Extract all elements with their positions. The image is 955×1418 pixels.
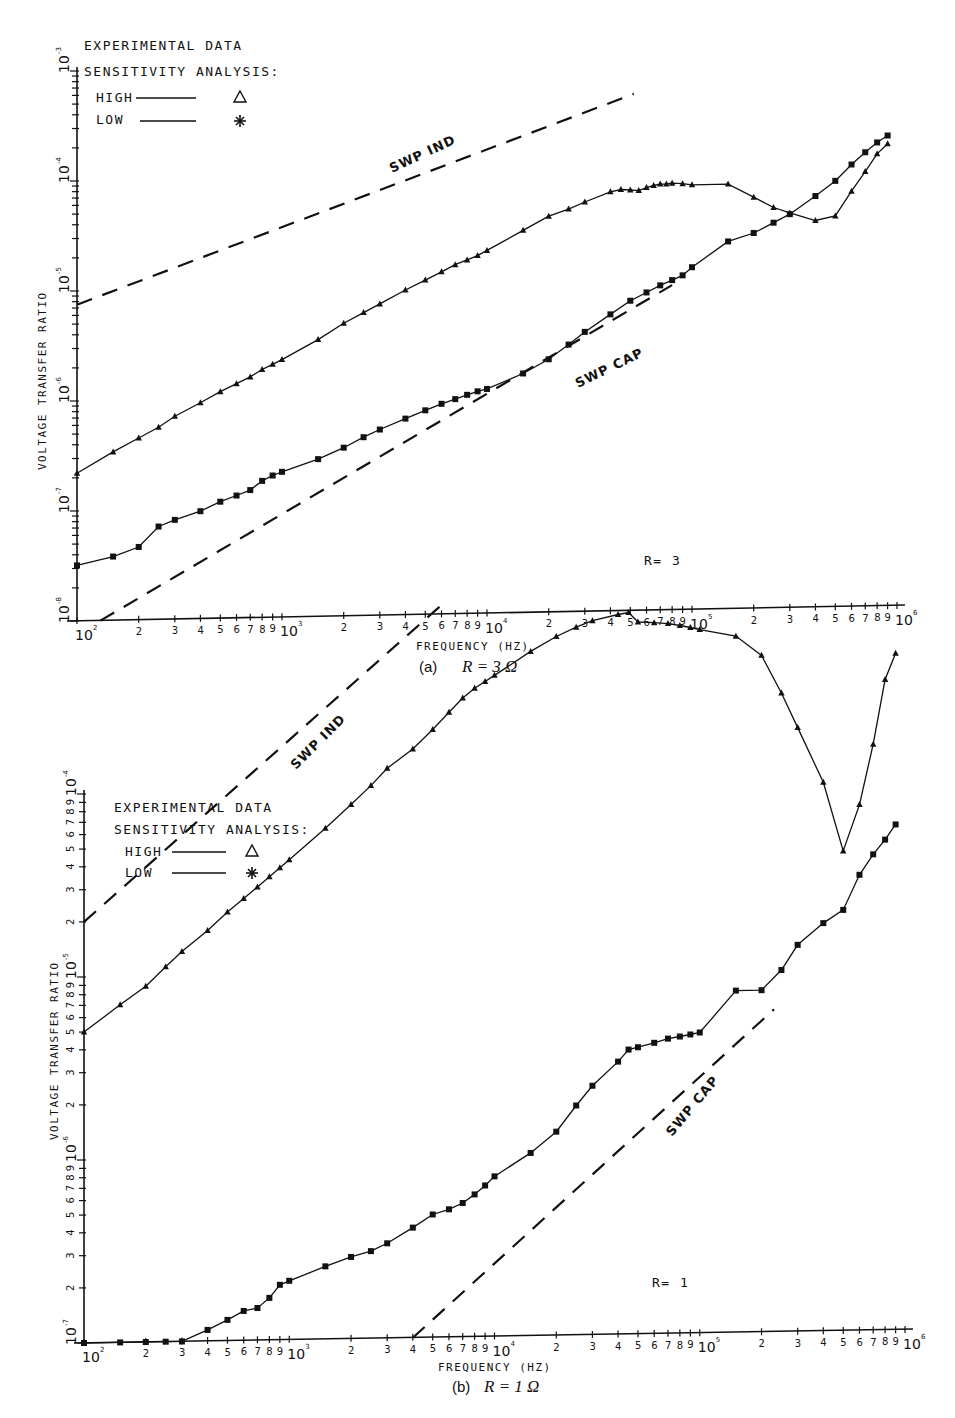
square-marker	[410, 1225, 416, 1231]
panel-a-legend-high-label: HIGH	[96, 90, 133, 105]
y-tick-exponent: -6	[62, 1135, 70, 1143]
triangle-marker	[197, 399, 203, 405]
y-tick-label: 9	[65, 1165, 76, 1171]
square-marker	[475, 388, 481, 394]
x-tick-label: 3	[589, 1341, 595, 1352]
triangle-marker	[74, 470, 80, 476]
x-tick-label: 10	[75, 627, 93, 643]
x-tick-label: 5	[224, 1347, 230, 1358]
data-series-line	[84, 824, 896, 1343]
x-tick-label: 5	[832, 613, 838, 624]
square-marker	[893, 821, 899, 827]
y-tick-label: 10	[63, 1144, 79, 1162]
square-marker	[528, 1150, 534, 1156]
square-marker	[205, 1327, 211, 1333]
y-tick-exponent: -8	[55, 597, 63, 604]
square-marker	[241, 1308, 247, 1314]
dashed-reference-line	[100, 285, 672, 620]
square-marker	[553, 1129, 559, 1135]
square-marker	[156, 524, 162, 530]
x-tick-label: 3	[787, 614, 793, 625]
square-marker	[452, 396, 458, 402]
square-marker	[689, 264, 695, 270]
square-marker	[725, 238, 731, 244]
x-tick-label: 9	[885, 612, 891, 623]
y-tick-exponent: -7	[55, 487, 63, 494]
square-marker	[197, 508, 203, 514]
triangle-marker	[882, 676, 888, 682]
y-tick-exponent: -7	[62, 1319, 70, 1326]
square-marker	[460, 1200, 466, 1206]
square-marker	[179, 1338, 185, 1344]
square-marker	[832, 178, 838, 184]
x-tick-label: 10	[287, 1346, 305, 1362]
x-tick-label: 4	[410, 1344, 416, 1355]
x-tick-label: 9	[893, 1336, 899, 1347]
asterisk-icon	[246, 867, 258, 879]
x-tick-exponent: 6	[921, 1333, 926, 1341]
square-marker	[680, 272, 686, 278]
y-tick-label: 5	[65, 846, 76, 852]
x-tick-exponent: 2	[100, 1346, 104, 1354]
y-tick-label: 6	[65, 1197, 76, 1203]
x-tick-label: 2	[348, 1345, 354, 1356]
panel-b-caption-prefix: (b)	[452, 1378, 470, 1395]
x-tick-label: 6	[849, 613, 855, 624]
y-tick-exponent: -4	[55, 156, 63, 164]
y-tick-exponent: -5	[62, 953, 70, 960]
square-marker	[582, 329, 588, 335]
square-marker	[422, 407, 428, 413]
panel-b-plot-area	[81, 605, 899, 1346]
panel-a-caption-prefix: (a)	[419, 658, 437, 675]
x-tick-label: 8	[464, 620, 470, 631]
square-marker	[870, 851, 876, 857]
x-tick-label: 5	[217, 624, 223, 635]
y-tick-label: 7	[65, 1002, 76, 1008]
triangle-marker	[892, 650, 898, 656]
square-marker	[657, 282, 663, 288]
panel-a-xlabel: FREQUENCY (HZ)	[416, 640, 530, 653]
x-tick-exponent: 5	[708, 613, 712, 621]
triangle-marker	[820, 779, 826, 785]
square-marker	[492, 1173, 498, 1179]
x-tick-label: 6	[856, 1337, 862, 1348]
x-tick-label: 4	[402, 621, 408, 632]
panel-a-swp-ind-label: SWP IND	[387, 132, 458, 176]
square-marker	[234, 493, 240, 499]
panel-a-legend-title: EXPERIMENTAL DATA	[84, 38, 243, 53]
x-tick-label: 5	[430, 1343, 436, 1354]
x-tick-label: 4	[615, 1341, 621, 1352]
triangle-marker	[758, 652, 764, 658]
square-marker	[377, 427, 383, 433]
square-marker	[81, 1340, 87, 1346]
square-marker	[143, 1339, 149, 1345]
x-tick-label: 9	[482, 1343, 488, 1354]
panel-b-legend-low-label: LOW	[125, 865, 153, 880]
x-tick-label: 9	[277, 1346, 283, 1357]
square-marker	[224, 1317, 230, 1323]
y-tick-label: 8	[65, 808, 76, 814]
square-marker	[74, 562, 80, 568]
y-tick-exponent: -3	[55, 47, 63, 54]
x-tick-label: 3	[377, 621, 383, 632]
square-marker	[163, 1339, 169, 1345]
square-marker	[484, 386, 490, 392]
triangle-marker	[870, 741, 876, 747]
x-tick-label: 10	[493, 1343, 511, 1359]
square-marker	[697, 1029, 703, 1035]
x-tick-label: 8	[259, 624, 265, 635]
x-tick-label: 2	[751, 615, 757, 626]
panel-a-ylabel: VOLTAGE TRANSFER RATIO	[36, 291, 49, 470]
x-tick-exponent: 6	[913, 609, 918, 617]
y-tick-exponent: -6	[55, 376, 63, 384]
x-axis-line	[74, 1329, 913, 1343]
square-marker	[217, 499, 223, 505]
square-marker	[840, 907, 846, 913]
y-tick-label: 10	[63, 1327, 79, 1345]
square-marker	[266, 1295, 272, 1301]
square-marker	[665, 1036, 671, 1042]
square-marker	[322, 1263, 328, 1269]
y-tick-label: 10	[56, 495, 72, 513]
triangle-marker	[155, 424, 161, 430]
x-tick-label: 9	[687, 1339, 693, 1350]
